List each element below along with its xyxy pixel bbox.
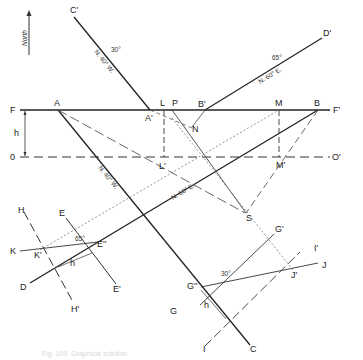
label-e: E xyxy=(59,208,65,218)
line-n-j xyxy=(172,118,293,270)
label-g: G xyxy=(170,306,177,316)
label-h-prime: H' xyxy=(71,304,79,314)
label-i-prime: I' xyxy=(314,243,319,253)
line-a-s xyxy=(58,110,245,213)
label-l-prime: L' xyxy=(159,161,166,171)
label-a-prime: A' xyxy=(145,113,153,123)
label-b: B xyxy=(314,98,320,108)
label-i: I xyxy=(203,344,206,354)
label-e-prime: E' xyxy=(113,284,121,294)
label-d-prime: D' xyxy=(323,28,331,38)
north-label: North xyxy=(21,30,28,46)
line-e xyxy=(66,218,116,284)
line-g xyxy=(200,234,274,305)
label-o-prime: O' xyxy=(332,152,341,162)
label-g-dbl: G'' xyxy=(187,281,198,291)
label-j-prime: J' xyxy=(291,270,298,280)
line-c-lower xyxy=(58,110,250,345)
label-h-top: h xyxy=(14,128,19,138)
line-a-n xyxy=(150,110,192,128)
label-l: L xyxy=(160,98,165,108)
label-m: M xyxy=(275,98,283,108)
label-f: F xyxy=(10,105,16,115)
label-p: P xyxy=(172,98,178,108)
label-c-prime: C' xyxy=(70,5,78,15)
label-h-left: h xyxy=(70,258,75,268)
label-b-prime: B' xyxy=(198,99,206,109)
label-k-prime: K' xyxy=(34,250,42,260)
dip-d: 65° xyxy=(272,54,282,61)
label-a: A xyxy=(54,98,60,108)
label-e-dbl: E'' xyxy=(97,239,107,249)
line-i xyxy=(205,252,300,346)
bearing-d-lower: N. 60° E. xyxy=(170,181,196,201)
label-k: K xyxy=(10,246,16,256)
geometry-diagram: North C' D' F F' A A' L xyxy=(0,0,363,360)
line-h xyxy=(24,212,73,302)
label-c: C xyxy=(250,344,257,354)
label-n: N xyxy=(192,124,199,134)
angle-k: 65° xyxy=(75,235,85,242)
label-j: J xyxy=(322,260,327,270)
label-d: D xyxy=(20,282,27,292)
bearing-c-lower: N. 40° W. xyxy=(97,164,120,190)
dip-c: 30° xyxy=(111,46,121,53)
label-h-right: h xyxy=(204,300,209,310)
line-j xyxy=(201,263,318,287)
label-s: S xyxy=(246,213,252,223)
label-f-prime: F' xyxy=(333,105,340,115)
label-o: 0 xyxy=(10,152,15,162)
label-m-prime: M' xyxy=(276,160,285,170)
angle-j: 30° xyxy=(221,270,231,277)
label-h: H xyxy=(18,205,25,215)
figure-caption: Fig. 100. Graphical solution xyxy=(42,350,127,358)
label-g-prime: G' xyxy=(275,224,284,234)
